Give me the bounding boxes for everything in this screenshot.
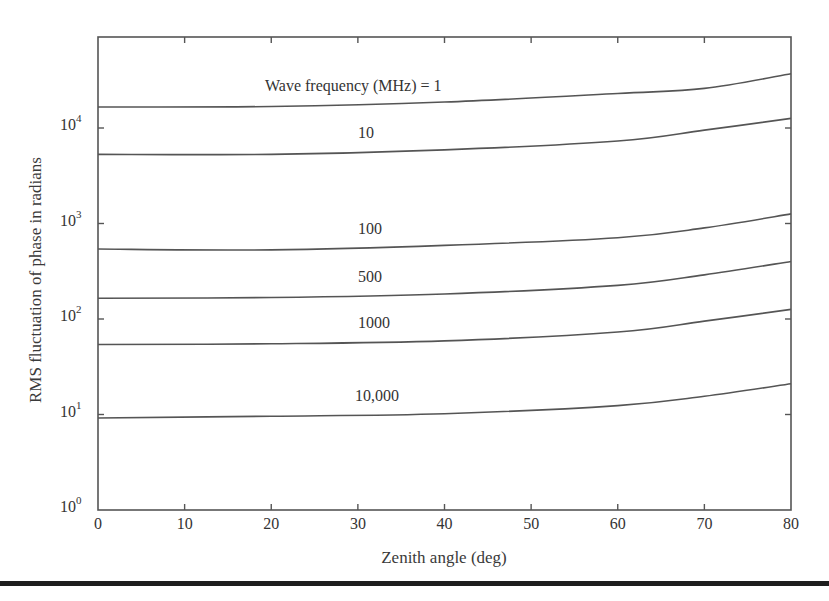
y-tick-base: 10	[60, 498, 76, 515]
y-axis-label: RMS fluctuation of phase in radians	[26, 157, 46, 403]
y-tick-base: 10	[60, 116, 76, 133]
x-tick-label: 70	[696, 515, 712, 533]
x-tick-label: 10	[177, 515, 193, 533]
x-tick-label: 50	[523, 515, 539, 533]
x-tick-label: 60	[610, 515, 626, 533]
series-line-1000-mhz	[98, 309, 791, 344]
y-tick-exponent: 1	[76, 399, 82, 411]
curve-label-10000-mhz: 10,000	[355, 387, 399, 405]
curve-label-1000-mhz: 1000	[358, 314, 390, 332]
x-tick-label: 40	[437, 515, 453, 533]
curve-label-10-mhz: 10	[358, 124, 374, 142]
plot-curves	[98, 74, 791, 418]
x-axis-label: Zenith angle (deg)	[381, 548, 507, 568]
bottom-rule-divider	[0, 581, 829, 586]
plot-frame	[98, 37, 791, 510]
plot-border	[98, 37, 791, 510]
y-tick-base: 10	[60, 403, 76, 420]
curve-label-500-mhz: 500	[358, 268, 382, 286]
y-tick-label: 103	[60, 210, 82, 230]
series-line-1-mhz	[98, 74, 791, 107]
series-line-100-mhz	[98, 214, 791, 250]
y-tick-base: 10	[60, 212, 76, 229]
x-tick-label: 0	[94, 515, 102, 533]
curve-label-100-mhz: 100	[358, 220, 382, 238]
y-tick-exponent: 4	[76, 112, 82, 124]
y-tick-exponent: 3	[76, 208, 82, 220]
y-tick-label: 101	[60, 401, 82, 421]
y-tick-base: 10	[60, 307, 76, 324]
curve-label-1-mhz: Wave frequency (MHz) = 1	[265, 77, 442, 95]
series-line-10-mhz	[98, 118, 791, 154]
series-line-500-mhz	[98, 262, 791, 299]
series-line-10000-mhz	[98, 384, 791, 418]
y-tick-exponent: 0	[76, 494, 82, 506]
x-tick-label: 80	[783, 515, 799, 533]
x-tick-label: 30	[350, 515, 366, 533]
y-tick-label: 100	[60, 496, 82, 516]
y-tick-label: 104	[60, 114, 82, 134]
y-tick-label: 102	[60, 305, 82, 325]
y-tick-exponent: 2	[76, 303, 82, 315]
x-tick-label: 20	[263, 515, 279, 533]
